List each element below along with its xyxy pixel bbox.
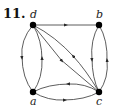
node-label-c: c: [96, 96, 102, 107]
edge-d-to-a: [22, 25, 33, 58]
node-label-d: d: [30, 9, 37, 20]
node-d: [30, 22, 36, 28]
node-b: [96, 22, 102, 28]
edge-c-to-d: [73, 56, 99, 92]
edge-b-to-c: [92, 25, 99, 60]
edge-d-to-c: [33, 25, 62, 61]
node-label-a: a: [30, 96, 37, 107]
edge-a-to-d: [33, 58, 42, 92]
edge-c-to-b: [99, 60, 107, 92]
edge-a-to-c: [33, 92, 65, 100]
node-label-b: b: [96, 9, 103, 20]
